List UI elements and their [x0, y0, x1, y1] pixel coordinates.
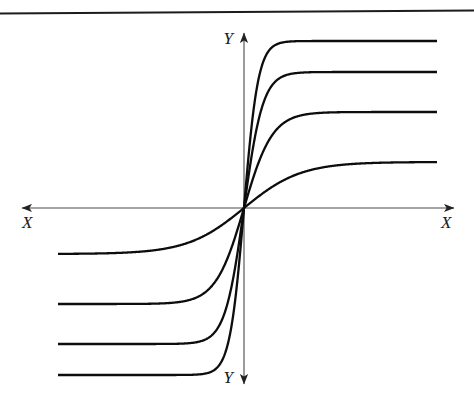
x-axis-label-left: X — [21, 213, 33, 232]
figure-container: X X Y Y — [0, 0, 474, 417]
y-axis-label-top: Y — [224, 29, 235, 48]
top-border-rule — [0, 11, 474, 14]
transfer-curve-plot: X X Y Y — [0, 0, 474, 417]
y-axis-label-bottom: Y — [224, 368, 235, 387]
x-axis-label-right: X — [440, 213, 452, 232]
